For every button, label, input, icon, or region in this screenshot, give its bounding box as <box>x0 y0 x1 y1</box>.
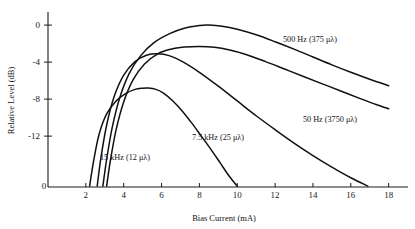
x-tick-label: 16 <box>346 190 356 200</box>
x-tick-label: 0 <box>42 181 47 191</box>
series-label-2: 50 Hz (3750 μλ) <box>303 115 357 124</box>
x-tick-label: 10 <box>233 190 243 200</box>
x-tick-label: 4 <box>121 190 126 200</box>
y-tick-label: 0 <box>36 20 41 30</box>
y-tick-label: -12 <box>28 131 40 141</box>
x-tick-label: 14 <box>308 190 318 200</box>
series-label-4: 15 kHz (12 μλ) <box>100 153 150 162</box>
x-axis-title: Bias Current (mA) <box>192 213 256 223</box>
series-label-3: 7.5 kHz (25 μλ) <box>192 133 244 142</box>
y-tick-label: -4 <box>33 57 41 67</box>
y-axis-title: Relative Level (dB) <box>6 67 16 135</box>
x-tick-label: 6 <box>159 190 164 200</box>
y-tick-label: -8 <box>33 94 41 104</box>
x-tick-label: 2 <box>84 190 89 200</box>
x-tick-label: 12 <box>271 190 280 200</box>
series-label-1: 500 Hz (375 μλ) <box>283 35 337 44</box>
bias-current-response-chart: 024681012141618 0-4-8-12 500 Hz (375 μλ)… <box>0 0 415 229</box>
chart-figure: 024681012141618 0-4-8-12 500 Hz (375 μλ)… <box>0 0 415 229</box>
x-tick-label: 8 <box>197 190 202 200</box>
x-tick-label: 18 <box>384 190 394 200</box>
